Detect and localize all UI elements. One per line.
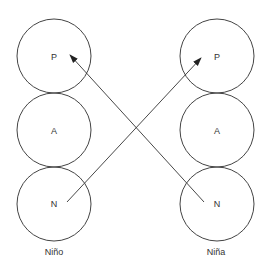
column-label-nina: Niña bbox=[207, 247, 226, 257]
node-label: A bbox=[214, 126, 220, 136]
node-nino-adult: A bbox=[17, 93, 91, 167]
node-label: P bbox=[51, 52, 57, 62]
node-nino-child: N bbox=[17, 167, 91, 241]
column-nina: P A N Niña bbox=[180, 19, 254, 257]
node-nino-parent: P bbox=[17, 19, 91, 93]
node-nina-adult: A bbox=[180, 93, 254, 167]
transactional-analysis-diagram: P A N Niño P A N Niña bbox=[0, 0, 268, 273]
node-nina-parent: P bbox=[180, 19, 254, 93]
arrow-nino-child-to-nina-parent bbox=[67, 58, 201, 202]
node-label: P bbox=[214, 52, 220, 62]
column-nino: P A N Niño bbox=[17, 19, 91, 257]
node-label: N bbox=[51, 199, 58, 209]
node-label: N bbox=[214, 199, 221, 209]
node-label: A bbox=[51, 126, 57, 136]
column-label-nino: Niño bbox=[45, 247, 64, 257]
node-nina-child: N bbox=[180, 167, 254, 241]
arrow-nina-child-to-nino-parent bbox=[70, 55, 204, 202]
